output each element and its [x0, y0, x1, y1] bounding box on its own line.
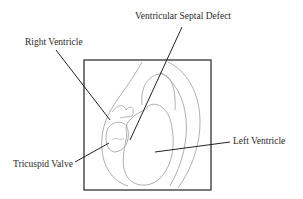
label-right-ventricle: Right Ventricle: [25, 38, 83, 48]
heart-diagram: Ventricular Septal Defect Right Ventricl…: [0, 0, 303, 199]
right-heart-outline: [102, 62, 142, 186]
aorta-inner-outline: [160, 72, 186, 186]
leader-left-ventricle: [155, 142, 230, 152]
tricuspid-valve-outline: [106, 122, 128, 152]
label-left-ventricle: Left Ventricle: [233, 137, 285, 147]
label-tricuspid-valve: Tricuspid Valve: [13, 160, 73, 170]
atrium-outline: [112, 106, 133, 118]
valve-leaflets: [112, 138, 124, 140]
figure-frame: [84, 60, 211, 190]
label-ventricular-septal-defect: Ventricular Septal Defect: [135, 12, 231, 22]
leader-vsd: [130, 27, 182, 140]
aorta-outer-outline: [168, 62, 200, 188]
